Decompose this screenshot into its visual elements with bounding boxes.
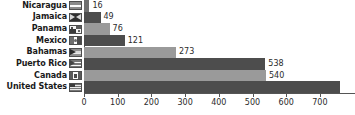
- flag-canada-icon: [69, 71, 82, 80]
- bar-value-label: 540: [269, 72, 284, 80]
- category-label-row: Puerto Rico: [0, 58, 84, 70]
- flag-us-icon: [69, 83, 82, 92]
- bar-value-label: 16: [92, 2, 102, 10]
- x-axis-tick: [84, 93, 85, 97]
- bar: [84, 70, 266, 82]
- x-axis-tick: [286, 93, 287, 97]
- bar-value-label: 538: [268, 60, 283, 68]
- table-row: 538: [84, 58, 284, 70]
- category-label-row: Jamaica: [0, 12, 84, 24]
- x-axis-tick-label: 200: [144, 99, 159, 107]
- bar: [84, 81, 340, 93]
- table-row: [84, 81, 340, 93]
- flag-puertorico-icon: [69, 59, 82, 68]
- category-label: United States: [7, 83, 67, 91]
- category-label-row: Nicaragua: [0, 0, 84, 12]
- bar-value-label: 76: [113, 25, 123, 33]
- bar: [84, 58, 265, 70]
- bar-value-label: 121: [128, 37, 143, 45]
- bar-value-label: 49: [104, 13, 114, 21]
- category-axis: NicaraguaJamaicaPanamaMexicoBahamasPuert…: [0, 0, 84, 93]
- category-label-row: Mexico: [0, 35, 84, 47]
- category-label-row: Panama: [0, 23, 84, 35]
- bar: [84, 0, 89, 12]
- x-axis-tick: [185, 93, 186, 97]
- table-row: 273: [84, 47, 194, 59]
- flag-jamaica-icon: [69, 13, 82, 22]
- category-label: Canada: [34, 72, 67, 80]
- x-axis-tick-label: 300: [177, 99, 192, 107]
- bar: [84, 35, 125, 47]
- flag-mexico-icon: [69, 36, 82, 45]
- x-axis-tick-label: 100: [110, 99, 125, 107]
- category-label: Puerto Rico: [16, 60, 67, 68]
- table-row: 540: [84, 70, 284, 82]
- table-row: 16: [84, 0, 103, 12]
- category-label-row: Bahamas: [0, 47, 84, 59]
- x-axis-tick-label: 700: [312, 99, 327, 107]
- flag-nicaragua-icon: [69, 1, 82, 10]
- x-axis-tick-label: 500: [245, 99, 260, 107]
- category-label-row: Canada: [0, 70, 84, 82]
- flag-panama-icon: [69, 25, 82, 34]
- plot-area: 164976121273538540: [84, 0, 355, 93]
- x-axis-tick: [219, 93, 220, 97]
- x-axis-tick: [320, 93, 321, 97]
- x-axis-tick-label: 600: [279, 99, 294, 107]
- table-row: 49: [84, 12, 114, 24]
- bar-chart: NicaraguaJamaicaPanamaMexicoBahamasPuert…: [0, 0, 355, 115]
- category-label: Nicaragua: [22, 2, 67, 10]
- x-axis-tick: [118, 93, 119, 97]
- category-label: Jamaica: [33, 13, 67, 21]
- category-label: Panama: [32, 25, 67, 33]
- category-label: Bahamas: [27, 48, 67, 56]
- category-label: Mexico: [36, 37, 67, 45]
- bar-value-label: 273: [179, 48, 194, 56]
- x-axis-tick-label: 400: [211, 99, 226, 107]
- table-row: 76: [84, 23, 123, 35]
- x-axis-tick-label: 0: [81, 99, 86, 107]
- x-axis-tick: [253, 93, 254, 97]
- table-row: 121: [84, 35, 143, 47]
- x-axis-tick: [151, 93, 152, 97]
- bar: [84, 23, 110, 35]
- category-label-row: United States: [0, 81, 84, 93]
- flag-bahamas-icon: [69, 48, 82, 57]
- bar: [84, 47, 176, 59]
- bar: [84, 12, 101, 24]
